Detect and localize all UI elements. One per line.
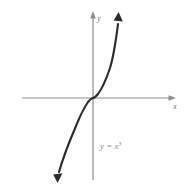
y-axis-arrowhead <box>90 11 96 19</box>
cubic-function-figure: y x y = x3 <box>0 0 186 194</box>
equation-label: y = x3 <box>99 141 122 151</box>
equation-label-exponent: 3 <box>118 141 122 147</box>
curve-up-arrowhead <box>114 12 123 22</box>
y-axis-label: y <box>96 14 101 23</box>
equation-label-base: y = x <box>99 141 119 151</box>
figure-canvas: y x y = x3 <box>0 0 186 194</box>
x-axis-arrowhead <box>169 95 177 101</box>
x-axis-label: x <box>172 102 177 111</box>
curve-down-arrowhead <box>53 173 62 183</box>
